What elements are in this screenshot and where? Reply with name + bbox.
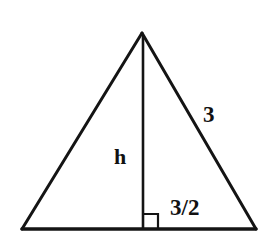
geometry-figure: 3 h 3/2 bbox=[0, 0, 267, 240]
triangle-left-side bbox=[22, 33, 142, 229]
right-angle-marker-icon bbox=[144, 214, 158, 229]
triangle-diagram bbox=[0, 0, 267, 240]
label-height: h bbox=[114, 146, 126, 168]
label-half-base: 3/2 bbox=[170, 196, 199, 219]
label-hypotenuse: 3 bbox=[203, 103, 215, 126]
